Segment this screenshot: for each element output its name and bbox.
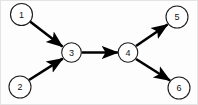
directed-graph-figure: 123456 xyxy=(0,0,198,105)
edge-4-to-6 xyxy=(136,59,170,81)
edge-2-to-3 xyxy=(29,59,63,80)
graph-node-5[interactable]: 5 xyxy=(166,6,188,28)
edge-line xyxy=(29,59,63,80)
node-label: 1 xyxy=(19,10,24,20)
edge-line xyxy=(136,25,168,47)
edge-line xyxy=(30,22,63,47)
node-label: 2 xyxy=(17,82,22,92)
graph-node-2[interactable]: 2 xyxy=(9,76,31,98)
graph-node-6[interactable]: 6 xyxy=(168,77,190,99)
edge-4-to-5 xyxy=(136,25,168,47)
graph-node-4[interactable]: 4 xyxy=(118,43,138,63)
edges-layer xyxy=(29,22,170,81)
diagram-canvas: 123456 xyxy=(0,0,198,105)
edge-1-to-3 xyxy=(30,22,63,47)
graph-node-3[interactable]: 3 xyxy=(62,43,82,63)
node-label: 5 xyxy=(174,12,179,22)
node-label: 4 xyxy=(125,48,130,58)
node-label: 3 xyxy=(69,48,74,58)
graph-node-1[interactable]: 1 xyxy=(11,4,33,26)
edge-line xyxy=(136,59,170,81)
node-label: 6 xyxy=(176,83,181,93)
